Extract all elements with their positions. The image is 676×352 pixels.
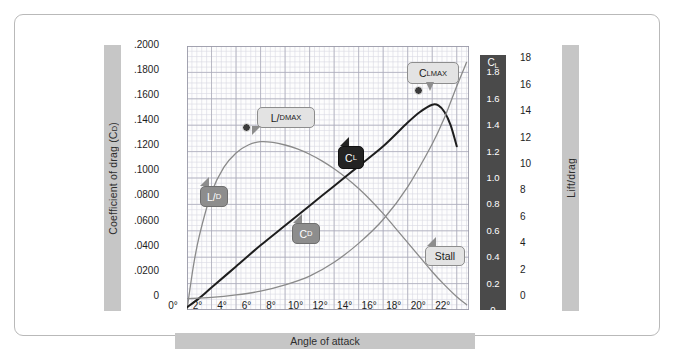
x-axis-tick-label: 22° [428,300,458,311]
y-axis-left-tick-label: .2000 [111,39,159,50]
y-axis-right-tick-label: 8 [520,184,542,195]
callout-ld: L/D [200,186,228,207]
y-axis-left-tick-label: 0 [111,290,159,301]
cl-scale-bar: CL 1.81.61.41.21.00.80.60.40.20 [480,55,506,310]
x-axis-title: Angle of attack [175,333,475,349]
x-axis-title-text: Angle of attack [290,335,359,347]
callout-cl-tail [340,137,349,146]
y-axis-left-tick-label: .0800 [111,189,159,200]
callout-ld-max-tail [252,126,261,135]
y-axis-left-tick-label: .1000 [111,164,159,175]
cl-scale-tick-label: 1.4 [480,119,506,130]
cl-scale-tick-label: 0.8 [480,198,506,209]
y-axis-left-tick-label: .0400 [111,240,159,251]
callout-cl-max: CLMAX [407,62,459,84]
y-axis-right-tick-label: 16 [520,79,542,90]
y-axis-left-tick-label: .0200 [111,265,159,276]
callout-ld-tail [200,177,209,186]
y-axis-left-tick-label: .1400 [111,114,159,125]
y-axis-left-tick-label: .1200 [111,139,159,150]
y-axis-left-tick-label: .1800 [111,64,159,75]
y-axis-right-tick-label: 14 [520,105,542,116]
cl-max-marker-dot [414,86,423,95]
cl-scale-tick-label: 1.6 [480,93,506,104]
y-axis-right-title: Lift/drag [562,45,579,311]
y-axis-right-tick-label: 12 [520,132,542,143]
callout-cd-tail [293,214,302,223]
cl-scale-tick-label: 1.8 [480,66,506,77]
cl-scale-tick-label: 0.6 [480,225,506,236]
y-axis-right-tick-label: 10 [520,158,542,169]
y-axis-right-tick-label: 0 [520,290,542,301]
y-axis-right-tick-label: 6 [520,211,542,222]
chart-frame: Coefficient of drag (CD) Lift/drag Angle… [14,14,660,336]
cl-scale-tick-label: 1.2 [480,146,506,157]
callout-cd: CD [292,223,320,244]
cl-scale-tick-label: 1.0 [480,172,506,183]
callout-stall: Stall [425,246,465,266]
y-axis-right-title-text: Lift/drag [565,158,577,198]
y-axis-right-tick-label: 18 [520,52,542,63]
cl-scale-tick-label: 0.4 [480,251,506,262]
y-axis-left-tick-label: .0600 [111,215,159,226]
y-axis-right-tick-label: 4 [520,237,542,248]
callout-cl: CL [338,146,364,169]
chart-page: Coefficient of drag (CD) Lift/drag Angle… [0,0,676,352]
cl-scale-tick-label: 0 [480,304,506,315]
callout-stall-tail [427,237,436,246]
callout-ld-max: L/DMAX [257,107,315,128]
y-axis-right-tick-label: 2 [520,264,542,275]
y-axis-left-tick-label: .1600 [111,89,159,100]
cl-scale-tick-label: 0.2 [480,278,506,289]
y-axis-left-title-subscript: D [109,125,118,131]
callout-cl-max-tail [426,82,434,91]
